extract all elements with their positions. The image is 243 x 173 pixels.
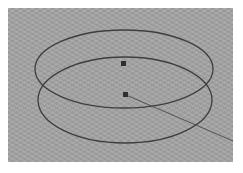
lower-circle-pivot-icon[interactable] [123,92,128,97]
lower-circle[interactable] [38,57,212,143]
viewport-canvas[interactable] [8,8,233,162]
upper-circle-pivot-icon[interactable] [121,61,126,66]
3d-viewport[interactable] [8,8,233,162]
